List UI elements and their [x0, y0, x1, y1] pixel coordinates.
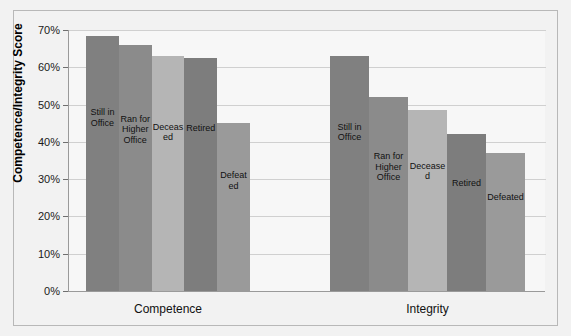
x-axis-line — [68, 291, 545, 292]
group-label-competence: Competence — [86, 302, 250, 316]
chart-page: 0%10%20%30%40%50%60%70% Competence/Integ… — [0, 0, 571, 336]
bar[interactable]: Still in Office — [86, 36, 119, 291]
y-tick-mark — [63, 30, 68, 31]
bar-label: Ran for Higher Office — [119, 114, 152, 146]
bar[interactable]: Still in Office — [330, 56, 369, 291]
bar[interactable]: Ran for Higher Office — [119, 45, 152, 291]
bar[interactable]: Retired — [184, 58, 217, 291]
bar-label: Deceased — [408, 161, 447, 182]
bar-label: Still in Office — [330, 122, 369, 143]
y-tick-label: 10% — [2, 248, 60, 260]
group-label-integrity: Integrity — [330, 302, 525, 316]
bar-label: Retired — [184, 123, 217, 134]
bar-label: Defeated — [486, 192, 525, 203]
y-axis-label: Competence/Integrity Score — [11, 0, 25, 223]
bar-label: Ran for Higher Office — [369, 151, 408, 183]
bar[interactable]: Defeated — [217, 123, 250, 291]
bar-label: Defeated — [217, 170, 250, 191]
y-tick-mark — [63, 67, 68, 68]
bar[interactable]: Deceased — [152, 56, 185, 291]
bar-label: Deceased — [152, 122, 185, 143]
bar[interactable]: Ran for Higher Office — [369, 97, 408, 291]
bar[interactable]: Defeated — [486, 153, 525, 291]
bar-label: Retired — [447, 178, 486, 189]
y-tick-mark — [63, 216, 68, 217]
y-tick-mark — [63, 105, 68, 106]
y-tick-mark — [63, 142, 68, 143]
bar[interactable]: Deceased — [408, 110, 447, 291]
y-tick-label: 0% — [2, 285, 60, 297]
y-tick-mark — [63, 179, 68, 180]
y-tick-mark — [63, 291, 68, 292]
bar[interactable]: Retired — [447, 134, 486, 291]
gridline — [69, 30, 546, 31]
bar-label: Still in Office — [86, 107, 119, 128]
y-tick-mark — [63, 254, 68, 255]
